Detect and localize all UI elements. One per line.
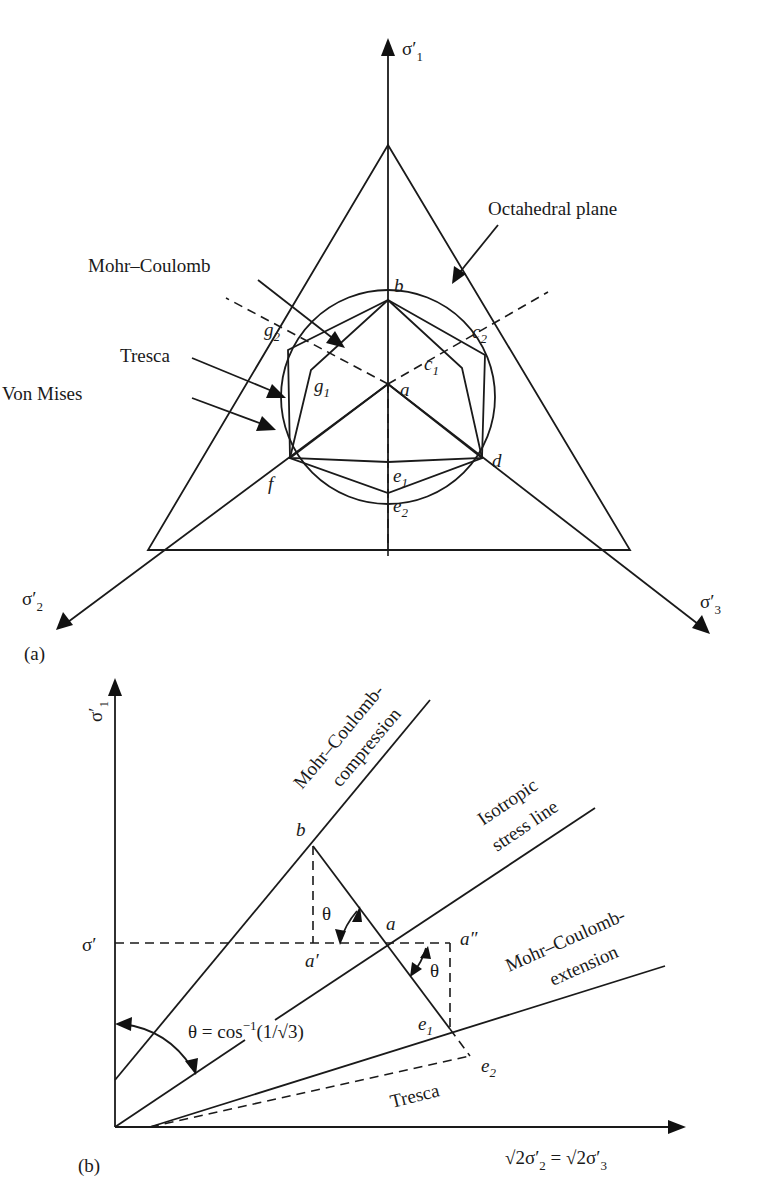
point-d-label: d [492,450,502,471]
panel-b-tag: (b) [78,1155,100,1177]
von-mises-leader [192,398,262,424]
sigma1-b-label: σ′1 [85,701,111,722]
point-f-label: f [268,473,276,494]
panel-b-triaxial-plane: θ θ θ = cos−1(1/√3) Mohr–Coulomb- compre… [78,678,686,1177]
x-axis-b-label: √2σ′2 = √2σ′3 [505,1147,607,1173]
deviatoric-line-b-e1 [313,846,450,1029]
yield-criteria-figure: Octahedral plane Mohr–Coulomb Tresca Von… [0,0,758,1199]
sigma3-arrowhead-icon [692,615,710,634]
x-axis-b-arrowhead-icon [668,1120,686,1134]
sigma3-label: σ′3 [700,591,721,617]
octahedral-leader [460,225,498,272]
point-g1-label: g1 [314,375,330,400]
cone-angle-arc [123,1024,192,1068]
point-e2-b-label: e2 [481,1055,496,1080]
mohr-coulomb-arrowhead-icon [326,331,345,348]
cone-angle-arrowhead-a-icon [115,1017,132,1031]
von-mises-arrowhead-icon [256,416,276,431]
cone-angle-arrowhead-b-icon [185,1058,198,1075]
point-a-label: a [400,379,410,400]
sigma-prime-label: σ′ [82,934,96,955]
point-e1-b-label: e1 [418,1013,433,1038]
sigma1-b-arrowhead-icon [108,678,122,696]
tresca-leader [192,358,272,391]
panel-a-tag: (a) [24,643,45,665]
point-c2-label: c2 [472,321,487,346]
octahedral-arrowhead-icon [452,266,466,284]
point-a-dprime-label: a″ [460,928,479,949]
tresca-hexagon [288,300,485,493]
sigma1-arrowhead-icon [381,38,395,56]
panel-a-octahedral-plane: Octahedral plane Mohr–Coulomb Tresca Von… [2,38,721,665]
point-a-b-label: a [386,913,396,934]
point-a-prime-label: a′ [305,950,320,971]
sigma1-label: σ′1 [402,38,423,64]
point-c1-label: c1 [424,353,439,378]
sigma2-label: σ′2 [22,588,43,614]
von-mises-label: Von Mises [2,383,82,404]
octahedral-plane-label: Octahedral plane [488,198,617,219]
theta-label-lower: θ [430,960,439,981]
mohr-coulomb-label: Mohr–Coulomb [88,255,210,276]
theta-arrowhead-lower-b-icon [410,962,422,977]
cone-angle-formula: θ = cos−1(1/√3) [188,1018,304,1043]
tresca-arrowhead-icon [266,384,286,398]
point-b-b-label: b [296,819,306,840]
point-e1-label: e1 [393,465,408,490]
theta-label-upper: θ [322,903,331,924]
tresca-label: Tresca [120,345,171,366]
point-e2-label: e2 [393,495,408,520]
dashed-axis-c [388,292,548,384]
point-b-label: b [394,275,404,296]
tresca-b-label: Tresca [388,1079,442,1112]
e1-e2-dashed [450,1029,470,1056]
